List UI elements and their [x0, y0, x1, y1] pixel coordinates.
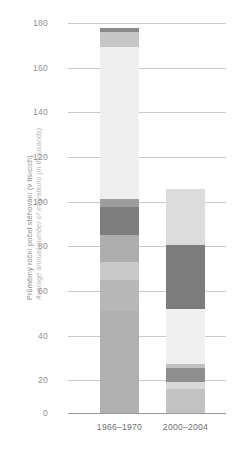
- bar-segment: [166, 368, 205, 382]
- y-tick-140: 140: [8, 107, 48, 117]
- bar-segment: [100, 311, 139, 413]
- y-tick-0: 0: [8, 408, 48, 418]
- gridline-0: [68, 413, 226, 414]
- bar-segment: [166, 382, 205, 389]
- bar-segment: [166, 309, 205, 364]
- gridline-180: [68, 23, 226, 24]
- gridline-120: [68, 157, 226, 158]
- bar-segment: [166, 189, 205, 244]
- gridline-140: [68, 112, 226, 113]
- bar-segment: [100, 199, 139, 207]
- bar-segment: [100, 47, 139, 199]
- gridline-160: [68, 68, 226, 69]
- bar-segment: [166, 245, 205, 309]
- chart-root: Průměrný roční počet stěhování (v tisící…: [0, 0, 237, 461]
- bar-segment: [166, 389, 205, 413]
- bar-segment: [166, 364, 205, 367]
- bar-segment: [100, 32, 139, 48]
- y-tick-180: 180: [8, 18, 48, 28]
- bar-segment: [100, 235, 139, 263]
- y-tick-40: 40: [8, 331, 48, 341]
- y-tick-160: 160: [8, 63, 48, 73]
- bar-segment: [100, 280, 139, 311]
- plot-area: 180 160 140 120 100 80 60 40 20 0 1966–1…: [56, 14, 226, 422]
- y-tick-20: 20: [8, 375, 48, 385]
- y-tick-120: 120: [8, 152, 48, 162]
- bar-segment: [100, 207, 139, 235]
- y-tick-100: 100: [8, 197, 48, 207]
- x-label-2000-2004: 2000–2004: [163, 422, 208, 432]
- y-tick-80: 80: [8, 241, 48, 251]
- y-tick-60: 60: [8, 286, 48, 296]
- bar-segment: [100, 28, 139, 31]
- x-label-1966-1970: 1966–1970: [97, 422, 142, 432]
- bar-segment: [100, 262, 139, 280]
